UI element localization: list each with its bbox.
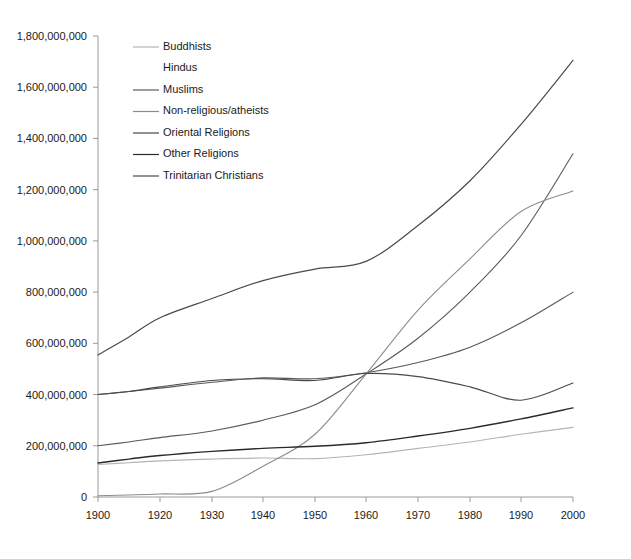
x-tick-label: 1900 xyxy=(86,509,110,521)
series-line-other-religions xyxy=(98,408,573,463)
y-tick-label: 400,000,000 xyxy=(26,389,87,401)
legend-label: Buddhists xyxy=(163,40,212,52)
y-tick-label: 1,600,000,000 xyxy=(17,81,87,93)
x-tick-label: 1930 xyxy=(200,509,224,521)
y-tick-label: 0 xyxy=(81,491,87,503)
x-tick-label: 1950 xyxy=(303,509,327,521)
world-religions-line-chart: 0200,000,000400,000,000600,000,000800,00… xyxy=(0,0,631,559)
y-tick-label: 1,000,000,000 xyxy=(17,235,87,247)
y-tick-label: 1,400,000,000 xyxy=(17,132,87,144)
y-tick-label: 1,200,000,000 xyxy=(17,184,87,196)
y-tick-label: 200,000,000 xyxy=(26,440,87,452)
chart-canvas: 0200,000,000400,000,000600,000,000800,00… xyxy=(0,0,631,559)
x-tick-label: 1970 xyxy=(406,509,430,521)
legend-label: Hindus xyxy=(163,61,198,73)
series-line-buddhists xyxy=(98,427,573,464)
series-line-hindus xyxy=(98,292,573,394)
x-tick-label: 1980 xyxy=(458,509,482,521)
series-line-muslims xyxy=(98,154,573,446)
x-tick-label: 2000 xyxy=(561,509,585,521)
x-axis-ticks: 1900192019301940195019601970198019902000 xyxy=(86,497,585,521)
legend-label: Oriental Religions xyxy=(163,126,250,138)
chart-legend: BuddhistsHindusMuslimsNon-religious/athe… xyxy=(133,40,269,181)
y-tick-label: 1,800,000,000 xyxy=(17,30,87,42)
legend-label: Non-religious/atheists xyxy=(163,104,269,116)
y-tick-label: 600,000,000 xyxy=(26,337,87,349)
legend-label: Other Religions xyxy=(163,147,239,159)
x-tick-label: 1940 xyxy=(251,509,275,521)
y-axis-ticks: 0200,000,000400,000,000600,000,000800,00… xyxy=(17,30,98,503)
series-line-non-religious-atheists xyxy=(98,191,573,496)
x-tick-label: 1920 xyxy=(148,509,172,521)
legend-label: Muslims xyxy=(163,83,204,95)
y-tick-label: 800,000,000 xyxy=(26,286,87,298)
x-tick-label: 1960 xyxy=(354,509,378,521)
x-tick-label: 1990 xyxy=(509,509,533,521)
legend-label: Trinitarian Christians xyxy=(163,169,264,181)
